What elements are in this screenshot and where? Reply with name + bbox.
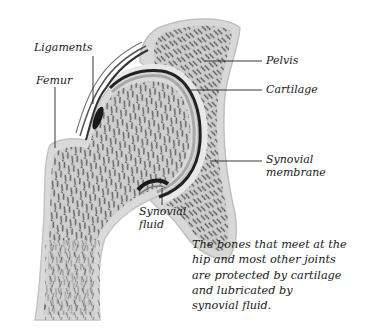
label-synovial-membrane-2: membrane	[266, 167, 326, 179]
hip-joint-diagram: Ligaments Femur Pelvis Cartilage Synovia…	[0, 0, 366, 333]
label-femur: Femur	[36, 75, 72, 87]
label-synovial-fluid-2: fluid	[139, 219, 164, 231]
caption-line: are protected by cartilage	[192, 268, 364, 283]
label-synovial-membrane-1: Synovial	[266, 154, 313, 166]
caption: The bones that meet at the hip and most …	[192, 237, 364, 313]
label-synovial-fluid-1: Synovial	[139, 206, 186, 218]
label-cartilage: Cartilage	[266, 84, 318, 96]
label-ligaments: Ligaments	[34, 42, 93, 54]
caption-line: The bones that meet at the	[192, 237, 364, 252]
caption-line: hip and most other joints	[192, 252, 364, 267]
label-pelvis: Pelvis	[266, 55, 298, 67]
caption-line: synovial fluid.	[192, 298, 364, 313]
caption-line: and lubricated by	[192, 283, 364, 298]
